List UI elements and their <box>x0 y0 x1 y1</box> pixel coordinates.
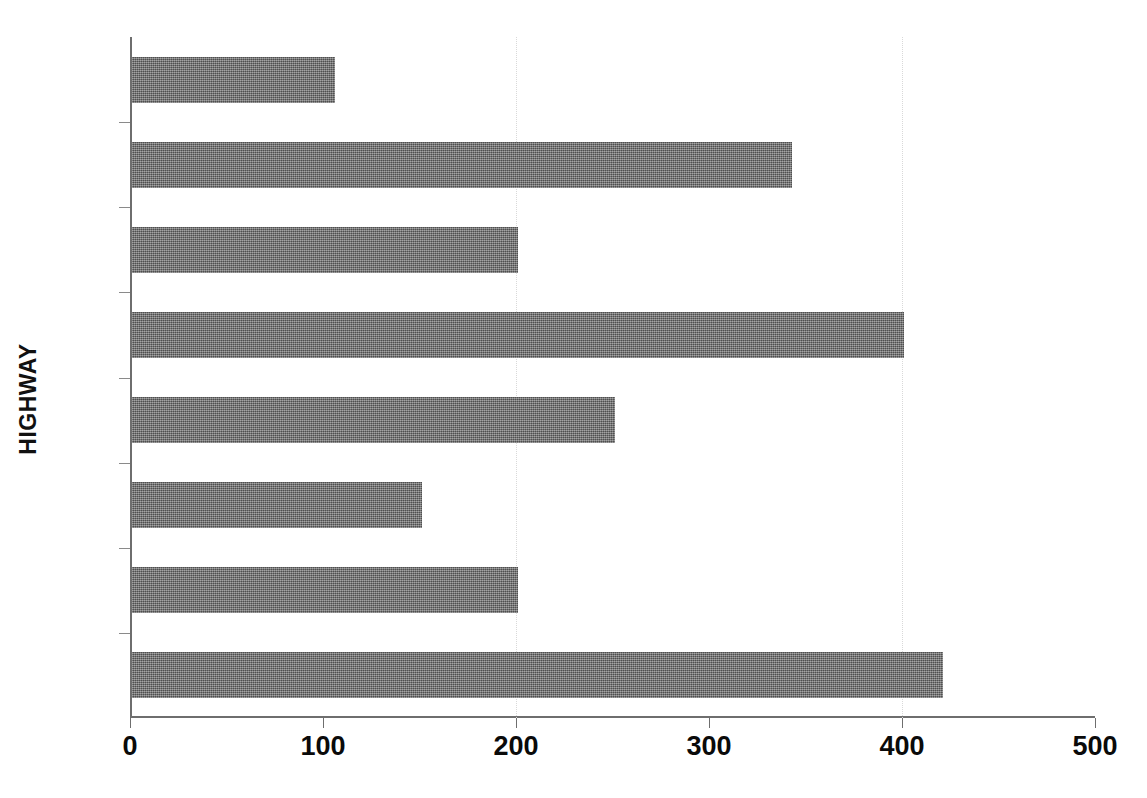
y-axis-tick <box>119 378 130 379</box>
gridline-vertical <box>516 37 518 718</box>
x-axis-tick <box>516 718 517 728</box>
bar-h-1 <box>132 652 943 698</box>
x-axis-tick-label: 500 <box>1072 731 1117 762</box>
y-axis-tick <box>119 633 130 634</box>
x-axis-tick-label: 0 <box>122 731 137 762</box>
x-axis-tick-label: 200 <box>493 731 538 762</box>
plot-area: 0100200300400500 H-1H-2H-3H-4H-5H-6H-7H-… <box>130 37 1095 718</box>
x-axis-line <box>130 716 1095 718</box>
bar-chart: HIGHWAY 0100200300400500 H-1H-2H-3H-4H-5… <box>0 0 1147 798</box>
y-axis-tick <box>119 292 130 293</box>
y-axis-tick <box>119 548 130 549</box>
bar-h-4 <box>132 397 615 443</box>
bar-h-7 <box>132 142 792 188</box>
x-axis-tick <box>902 718 903 728</box>
y-axis-line <box>130 37 132 718</box>
gridline-vertical <box>902 37 904 718</box>
y-axis-tick <box>119 463 130 464</box>
y-axis-tick <box>119 122 130 123</box>
bar-h-2 <box>132 567 518 613</box>
x-axis-tick <box>130 718 131 728</box>
bar-h-3 <box>132 482 422 528</box>
bar-h-8 <box>132 57 335 103</box>
x-axis-tick-label: 400 <box>879 731 924 762</box>
y-axis-tick <box>119 207 130 208</box>
x-axis-tick-label: 100 <box>300 731 345 762</box>
y-axis-title: HIGHWAY <box>0 0 56 798</box>
bar-h-6 <box>132 227 518 273</box>
x-axis-tick <box>323 718 324 728</box>
bar-h-5 <box>132 312 904 358</box>
x-axis-tick <box>709 718 710 728</box>
x-axis-tick-label: 300 <box>686 731 731 762</box>
x-axis-tick <box>1095 718 1096 728</box>
